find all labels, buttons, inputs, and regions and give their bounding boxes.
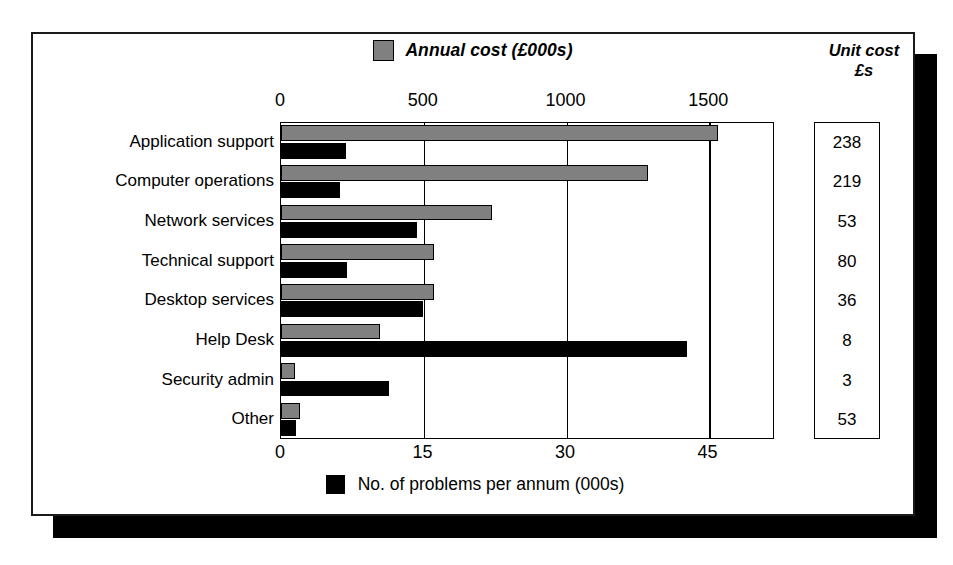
chart-card: Annual cost (£000s) Unit cost £s 0500100… bbox=[31, 32, 915, 516]
top-axis-tick-1500: 1500 bbox=[688, 90, 728, 111]
bar-annual-cost-5 bbox=[281, 324, 380, 340]
category-axis-labels: Application supportComputer operationsNe… bbox=[43, 122, 274, 439]
black-swatch-icon bbox=[326, 475, 345, 494]
bottom-axis-tick-15: 15 bbox=[412, 442, 432, 463]
bar-annual-cost-2 bbox=[281, 205, 492, 221]
bar-annual-cost-0 bbox=[281, 125, 718, 141]
bar-problems-6 bbox=[281, 381, 389, 397]
bottom-axis-tick-30: 30 bbox=[555, 442, 575, 463]
category-label-5: Help Desk bbox=[43, 330, 274, 350]
bar-annual-cost-4 bbox=[281, 284, 434, 300]
unit-cost-header-line1: Unit cost bbox=[814, 40, 914, 60]
category-label-4: Desktop services bbox=[43, 290, 274, 310]
legend-annual-cost-label: Annual cost (£000s) bbox=[405, 40, 572, 61]
plot-area bbox=[280, 122, 774, 439]
unit-cost-value-0: 238 bbox=[815, 133, 879, 153]
top-axis-tick-1000: 1000 bbox=[546, 90, 586, 111]
top-axis-ticklabels: 050010001500 bbox=[33, 90, 917, 114]
bottom-axis-tick-0: 0 bbox=[275, 442, 285, 463]
bottom-axis-ticklabels: 0153045 bbox=[280, 442, 774, 466]
category-label-6: Security admin bbox=[43, 370, 274, 390]
bar-problems-1 bbox=[281, 182, 340, 198]
top-axis-tick-500: 500 bbox=[408, 90, 438, 111]
unit-cost-value-6: 3 bbox=[815, 371, 879, 391]
unit-cost-value-5: 8 bbox=[815, 331, 879, 351]
bar-annual-cost-3 bbox=[281, 244, 434, 260]
bar-problems-3 bbox=[281, 262, 347, 278]
bar-problems-4 bbox=[281, 301, 423, 317]
bar-problems-0 bbox=[281, 143, 346, 159]
legend-problems-label: No. of problems per annum (000s) bbox=[358, 474, 625, 495]
bar-annual-cost-7 bbox=[281, 403, 300, 419]
bar-problems-7 bbox=[281, 420, 296, 436]
unit-cost-value-1: 219 bbox=[815, 172, 879, 192]
bar-problems-2 bbox=[281, 222, 417, 238]
bottom-axis-tick-45: 45 bbox=[697, 442, 717, 463]
unit-cost-header-line2: £s bbox=[814, 60, 914, 80]
legend-problems: No. of problems per annum (000s) bbox=[33, 474, 917, 495]
bar-annual-cost-6 bbox=[281, 363, 295, 379]
unit-cost-value-2: 53 bbox=[815, 212, 879, 232]
unit-cost-value-4: 36 bbox=[815, 291, 879, 311]
bar-annual-cost-1 bbox=[281, 165, 648, 181]
unit-cost-value-7: 53 bbox=[815, 410, 879, 430]
category-label-0: Application support bbox=[43, 132, 274, 152]
top-axis-tick-0: 0 bbox=[275, 90, 285, 111]
category-label-7: Other bbox=[43, 409, 274, 429]
category-label-3: Technical support bbox=[43, 251, 274, 271]
unit-cost-value-box: 2382195380368353 bbox=[814, 122, 880, 439]
unit-cost-value-3: 80 bbox=[815, 252, 879, 272]
bar-problems-5 bbox=[281, 341, 687, 357]
category-label-1: Computer operations bbox=[43, 171, 274, 191]
gridline-1500 bbox=[709, 123, 711, 438]
gray-swatch-icon bbox=[373, 40, 394, 61]
unit-cost-header: Unit cost £s bbox=[814, 40, 914, 80]
legend-annual-cost: Annual cost (£000s) bbox=[33, 40, 913, 61]
category-label-2: Network services bbox=[43, 211, 274, 231]
